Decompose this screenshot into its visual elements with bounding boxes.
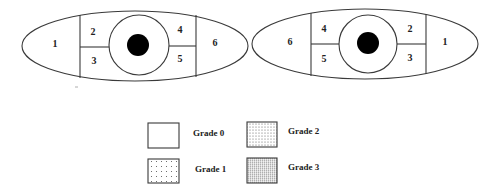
right-eye-zone-4-label: 4: [322, 23, 327, 34]
right-eye-zone-3-label: 3: [408, 52, 413, 63]
right-eye: 6 4 5 2 3 1: [252, 9, 478, 79]
right-eye-zone-1-label: 1: [443, 36, 448, 47]
left-eye-zone-2-label: 2: [91, 26, 96, 37]
left-eye-zone-5-label: 5: [178, 53, 183, 64]
legend: Grade 0 Grade 1 Grade 2 Grade 3: [148, 122, 320, 183]
right-eye-zone-5-label: 5: [322, 53, 327, 64]
left-eye-zone-1-label: 1: [53, 38, 58, 49]
legend-item-grade-1: Grade 1: [148, 159, 227, 183]
right-eye-zone-2-label: 2: [408, 23, 413, 34]
legend-item-grade-3: Grade 3: [247, 158, 320, 183]
legend-swatch-grade-2: [247, 122, 277, 147]
legend-item-grade-2: Grade 2: [247, 122, 320, 147]
left-eye-zone-6-label: 6: [213, 37, 218, 48]
left-eye: 1 2 3 4 5 6: [22, 11, 248, 81]
legend-swatch-grade-0: [148, 123, 179, 148]
left-eye-zone-3-label: 3: [92, 55, 97, 66]
legend-label-grade-1: Grade 1: [195, 164, 227, 174]
legend-label-grade-3: Grade 3: [288, 162, 320, 172]
legend-label-grade-0: Grade 0: [193, 128, 225, 138]
legend-label-grade-2: Grade 2: [288, 126, 320, 136]
legend-swatch-grade-1: [148, 159, 179, 183]
left-eye-zone-4-label: 4: [178, 24, 183, 35]
legend-item-grade-0: Grade 0: [148, 123, 225, 148]
right-eye-pupil: [357, 32, 379, 54]
left-eye-pupil: [127, 34, 149, 56]
legend-swatch-grade-3: [247, 158, 277, 183]
right-eye-zone-6-label: 6: [288, 36, 293, 47]
eye-zone-diagram: 1 2 3 4 5 6 6 4 5 2 3 1 Grade 0 Grade 1: [0, 0, 490, 185]
